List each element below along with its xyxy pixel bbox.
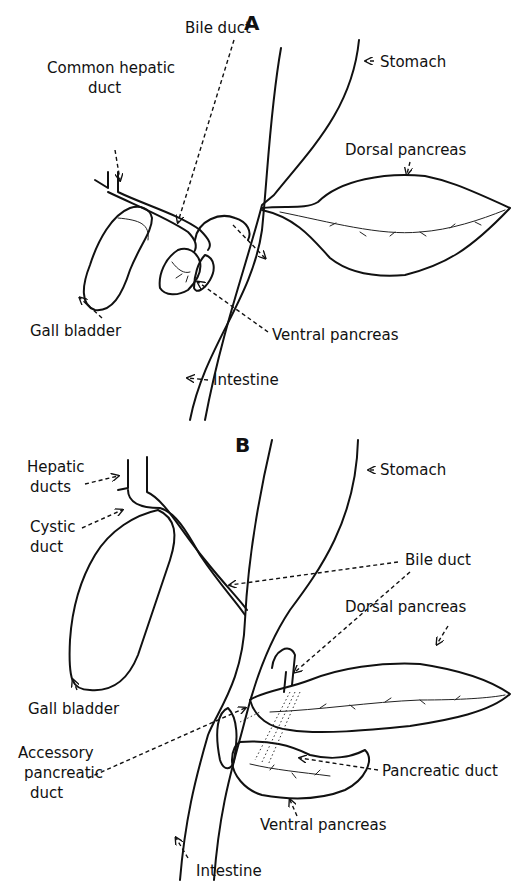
hepatic-duct-left-a <box>95 172 108 188</box>
bile-duct-loop-a <box>195 216 249 240</box>
label-accessory-b-1: Accessory <box>18 744 94 762</box>
label-common-hepatic-a-1: Common hepatic <box>47 59 175 77</box>
pointer-bile-duct-b-2 <box>295 572 410 672</box>
label-dorsal-pancreas-a: Dorsal pancreas <box>345 141 467 159</box>
label-hepatic-b-1: Hepatic <box>27 458 85 476</box>
pointer-ventral-pancreas-a <box>198 282 268 332</box>
pointer-bile-duct-b <box>230 562 398 585</box>
pointer-hepatic-b <box>85 476 118 484</box>
label-gall-bladder-a: Gall bladder <box>30 322 122 340</box>
label-bile-duct-b: Bile duct <box>405 551 471 569</box>
ventral-pancreas-b <box>232 742 369 799</box>
pointer-dorsal-pancreas-b <box>437 626 448 644</box>
pointer-accessory-duct-b <box>88 708 245 778</box>
label-ventral-pancreas-a: Ventral pancreas <box>272 326 399 344</box>
ventral-lobe-b <box>217 708 236 768</box>
label-common-hepatic-a-2: duct <box>88 79 121 97</box>
cystic-duct-b <box>128 490 245 615</box>
cystic-duct-a <box>118 218 148 240</box>
ventral-pancreas-duct-b <box>250 764 330 778</box>
label-accessory-b-3: duct <box>30 784 63 802</box>
pointer-intestine-a <box>188 378 208 380</box>
pointer-ventral-pancreas-b <box>290 800 297 816</box>
label-cystic-b-2: duct <box>30 538 63 556</box>
label-stomach-b: Stomach <box>380 461 446 479</box>
panel-b-letter: B <box>235 433 250 457</box>
pointer-dorsal-pancreas-a <box>407 162 410 174</box>
pancreas-development-diagram: A Bile duct Common hepatic duct Stomac <box>0 0 523 889</box>
label-gall-bladder-b: Gall bladder <box>28 700 120 718</box>
hepatic-duct-left-b <box>118 460 128 490</box>
gall-bladder-b <box>70 510 175 690</box>
pointer-bile-duct-a <box>178 40 234 222</box>
gut-left-wall-b <box>180 440 272 880</box>
dorsal-pancreas-duct-a <box>280 210 505 236</box>
label-pancreatic-duct-b: Pancreatic duct <box>382 762 498 780</box>
panel-b: B Hepatic ducts <box>18 433 510 880</box>
label-accessory-b-2: pancreatic <box>24 764 103 782</box>
label-hepatic-b-2: ducts <box>30 478 71 496</box>
label-intestine-b: Intestine <box>196 862 262 880</box>
gut-right-wall-b <box>214 440 358 880</box>
label-ventral-pancreas-b: Ventral pancreas <box>260 816 387 834</box>
hepatic-duct-right-b <box>147 457 247 610</box>
label-cystic-b-1: Cystic <box>30 518 75 536</box>
label-stomach-a: Stomach <box>380 53 446 71</box>
ventral-pancreas-duct-a <box>172 262 190 282</box>
pointer-cystic-b <box>82 510 122 528</box>
gut-right-wall-a <box>205 40 359 420</box>
label-intestine-a: Intestine <box>213 371 279 389</box>
dorsal-pancreas-a <box>262 175 510 276</box>
panel-a: A Bile duct Common hepatic duct Stomac <box>30 11 510 420</box>
dorsal-pancreas-b <box>250 664 510 732</box>
label-dorsal-pancreas-b: Dorsal pancreas <box>345 598 467 616</box>
label-bile-duct-a: Bile duct <box>185 19 251 37</box>
dorsal-pancreas-duct-b <box>270 695 505 712</box>
gall-bladder-a <box>84 207 152 310</box>
pointer-gall-bladder-a <box>80 298 102 318</box>
